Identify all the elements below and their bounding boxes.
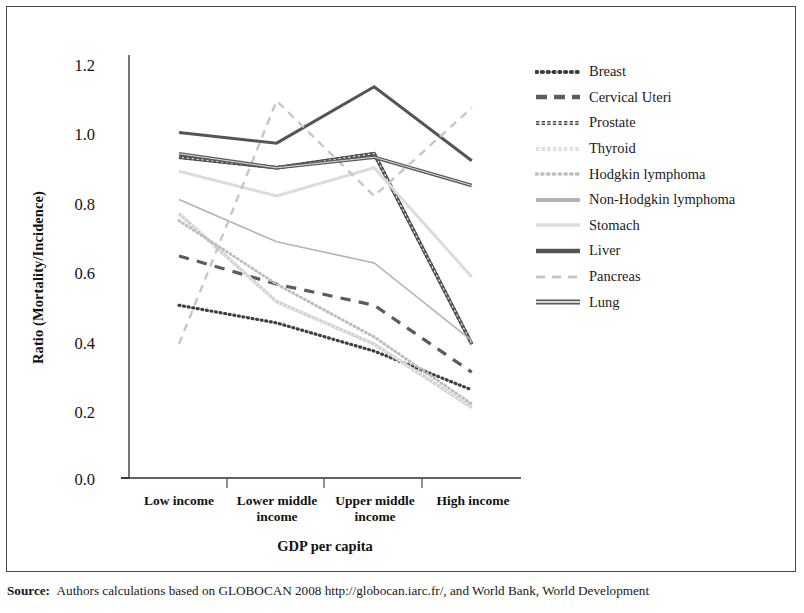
- legend-swatch-breast: [535, 64, 581, 80]
- source-label: Source:: [7, 583, 50, 598]
- legend-swatch-liver: [535, 243, 581, 259]
- legend-swatch-non-hodgkin-lymphoma: [535, 192, 581, 208]
- legend-swatch-lung: [535, 294, 581, 310]
- legend-label-pancreas: Pancreas: [589, 268, 641, 285]
- legend-label-stomach: Stomach: [589, 217, 640, 234]
- legend-item-lung[interactable]: Lung: [535, 289, 785, 315]
- legend-swatch-thyroid: [535, 141, 581, 157]
- legend-item-non-hodgkin-lymphoma[interactable]: Non-Hodgkin lymphoma: [535, 187, 785, 213]
- legend-item-stomach[interactable]: Stomach: [535, 213, 785, 239]
- legend-item-breast[interactable]: Breast: [535, 59, 785, 85]
- legend-swatch-cervical-uteri: [535, 89, 581, 105]
- legend-swatch-hodgkin-lymphoma: [535, 166, 581, 182]
- series-liver: [179, 87, 472, 161]
- legend-label-non-hodgkin-lymphoma: Non-Hodgkin lymphoma: [589, 191, 735, 208]
- series-hodgkin-lymphoma: [179, 221, 472, 404]
- legend-label-breast: Breast: [589, 63, 626, 80]
- source-note: Source: Authors calculations based on GL…: [7, 583, 802, 599]
- legend-swatch-prostate: [535, 115, 581, 131]
- legend-label-prostate: Prostate: [589, 114, 636, 131]
- legend-label-thyroid: Thyroid: [589, 140, 636, 157]
- legend-item-prostate[interactable]: Prostate: [535, 110, 785, 136]
- legend-label-hodgkin-lymphoma: Hodgkin lymphoma: [589, 166, 705, 183]
- legend-swatch-pancreas: [535, 269, 581, 285]
- chart-legend: Breast Cervical Uteri Prostate Thyroid H…: [535, 59, 785, 315]
- legend-label-liver: Liver: [589, 242, 620, 259]
- legend-item-liver[interactable]: Liver: [535, 238, 785, 264]
- figure-container: Ratio (Mortality/Incidence) GDP per capi…: [6, 6, 796, 572]
- data-series-layer: [179, 87, 472, 408]
- source-text: Authors calculations based on GLOBOCAN 2…: [57, 583, 650, 598]
- legend-item-cervical-uteri[interactable]: Cervical Uteri: [535, 85, 785, 111]
- axis-lines: [121, 55, 521, 488]
- legend-item-pancreas[interactable]: Pancreas: [535, 264, 785, 290]
- legend-item-thyroid[interactable]: Thyroid: [535, 136, 785, 162]
- legend-item-hodgkin-lymphoma[interactable]: Hodgkin lymphoma: [535, 161, 785, 187]
- legend-label-cervical-uteri: Cervical Uteri: [589, 89, 672, 106]
- legend-label-lung: Lung: [589, 294, 620, 311]
- legend-swatch-stomach: [535, 217, 581, 233]
- series-cervical-uteri: [179, 256, 472, 372]
